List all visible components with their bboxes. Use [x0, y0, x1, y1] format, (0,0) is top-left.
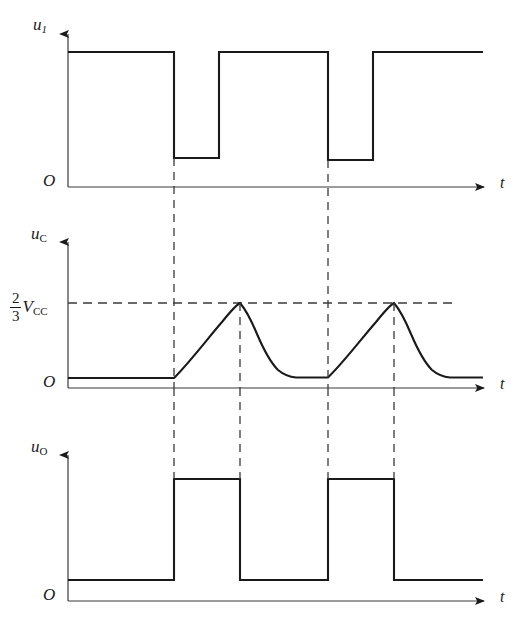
timing-diagram-figure: u1 O t uC 2 3 VCC O t uO O t [0, 0, 532, 644]
origin-label-u1: O [43, 171, 55, 191]
waveform-uc [68, 303, 483, 378]
origin-label-uo: O [43, 585, 55, 605]
waveform-uo [68, 479, 483, 580]
vcc-symbol-group: VCC [23, 297, 48, 317]
time-label-uo: t [500, 588, 504, 606]
u1-subscript: 1 [42, 23, 48, 35]
panel-capacitor-voltage [68, 242, 484, 388]
uc-symbol: u [31, 224, 40, 243]
uo-subscript: O [40, 445, 48, 457]
axis-label-uo: uO [31, 437, 47, 457]
two-thirds-fraction: 2 3 [10, 291, 22, 324]
waveform-u1 [68, 52, 483, 160]
u1-symbol: u [33, 15, 42, 34]
panel-output-voltage [68, 455, 484, 601]
fraction-denominator: 3 [10, 308, 22, 324]
uc-subscript: C [40, 232, 47, 244]
axis-label-u1: u1 [33, 15, 47, 35]
dashed-guides [174, 158, 394, 479]
time-label-uc: t [500, 375, 504, 393]
fraction-numerator: 2 [10, 291, 22, 307]
vcc-symbol: V [23, 297, 33, 316]
origin-label-uc: O [43, 372, 55, 392]
time-label-u1: t [500, 174, 504, 192]
waveform-canvas [0, 0, 532, 644]
panel-input-trigger [68, 34, 484, 187]
axis-label-uc: uC [31, 224, 47, 244]
uo-symbol: u [31, 437, 40, 456]
threshold-level-label: 2 3 VCC [10, 291, 48, 324]
vcc-subscript: CC [33, 306, 48, 318]
